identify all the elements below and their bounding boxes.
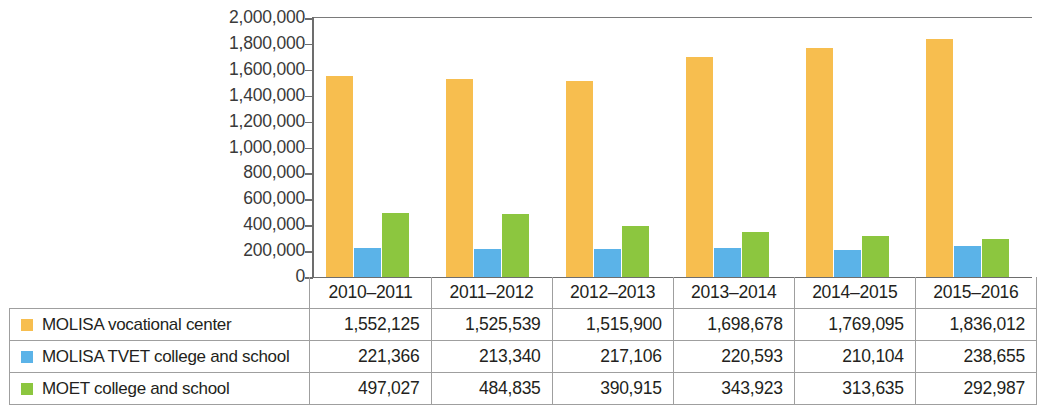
bar bbox=[382, 213, 409, 277]
table-column-header: 2011–2012 bbox=[431, 277, 552, 309]
legend-swatch-icon bbox=[21, 383, 33, 395]
y-axis-tick-labels: 2,000,0001,800,0001,600,0001,400,0001,20… bbox=[0, 0, 305, 278]
data-table: 2010–20112011–20122012–20132013–20142014… bbox=[9, 277, 1037, 405]
bar-group bbox=[434, 18, 554, 277]
y-axis-tick-label: 800,000 bbox=[243, 164, 305, 182]
legend-label: MOET college and school bbox=[42, 379, 229, 399]
table-cell-value: 220,593 bbox=[673, 341, 794, 373]
bar-group bbox=[554, 18, 674, 277]
table-cell-value: 343,923 bbox=[673, 373, 794, 405]
y-axis-tick-mark bbox=[305, 251, 313, 253]
table-row: MOLISA vocational center1,552,1251,525,5… bbox=[10, 309, 1037, 341]
bar bbox=[714, 248, 741, 277]
y-axis-tick-label: 1,800,000 bbox=[229, 35, 305, 53]
y-axis-tick-label: 600,000 bbox=[243, 190, 305, 208]
table-cell-value: 213,340 bbox=[431, 341, 552, 373]
table-row: MOLISA TVET college and school221,366213… bbox=[10, 341, 1037, 373]
y-axis-tick-mark bbox=[305, 199, 313, 201]
y-axis-tick-mark bbox=[305, 122, 313, 124]
table-cell-value: 238,655 bbox=[915, 341, 1036, 373]
table-cell-value: 1,698,678 bbox=[673, 309, 794, 341]
legend-swatch-icon bbox=[21, 319, 33, 331]
table-cell-value: 313,635 bbox=[794, 373, 915, 405]
table-cell-value: 1,515,900 bbox=[552, 309, 673, 341]
table-cell-value: 292,987 bbox=[915, 373, 1036, 405]
legend-swatch-icon bbox=[21, 351, 33, 363]
y-axis-tick-label: 200,000 bbox=[243, 242, 305, 260]
table-row: MOET college and school497,027484,835390… bbox=[10, 373, 1037, 405]
bar bbox=[862, 236, 889, 277]
legend-item-1: MOLISA TVET college and school bbox=[10, 341, 310, 373]
y-axis-tick-mark bbox=[305, 173, 313, 175]
y-axis-tick-mark bbox=[305, 18, 313, 20]
y-axis-tick-label: 1,400,000 bbox=[229, 87, 305, 105]
table-cell-value: 1,525,539 bbox=[431, 309, 552, 341]
table-cell-value: 497,027 bbox=[310, 373, 431, 405]
bar bbox=[834, 250, 861, 277]
bar bbox=[326, 76, 353, 277]
bar bbox=[982, 239, 1009, 277]
legend-item-2: MOET college and school bbox=[10, 373, 310, 405]
table-column-header: 2013–2014 bbox=[673, 277, 794, 309]
y-axis-tick-label: 400,000 bbox=[243, 216, 305, 234]
bar-group bbox=[914, 18, 1034, 277]
y-axis-tick-label: 1,200,000 bbox=[229, 113, 305, 131]
bar bbox=[806, 48, 833, 277]
bar bbox=[926, 39, 953, 277]
bar bbox=[742, 232, 769, 277]
data-table-body: 2010–20112011–20122012–20132013–20142014… bbox=[10, 277, 1037, 405]
bar-group bbox=[674, 18, 794, 277]
table-corner-cell bbox=[10, 277, 310, 309]
table-cell-value: 217,106 bbox=[552, 341, 673, 373]
legend-label: MOLISA TVET college and school bbox=[42, 347, 289, 367]
table-cell-value: 1,836,012 bbox=[915, 309, 1036, 341]
bar bbox=[954, 246, 981, 277]
bar-group bbox=[314, 18, 434, 277]
legend-item-0: MOLISA vocational center bbox=[10, 309, 310, 341]
bar-group bbox=[794, 18, 914, 277]
bar-chart-plot: 2,000,0001,800,0001,600,0001,400,0001,20… bbox=[0, 0, 1032, 278]
table-cell-value: 390,915 bbox=[552, 373, 673, 405]
legend-label: MOLISA vocational center bbox=[42, 315, 231, 335]
bar bbox=[622, 226, 649, 277]
table-cell-value: 1,769,095 bbox=[794, 309, 915, 341]
y-axis-tick-mark bbox=[305, 44, 313, 46]
table-cell-value: 221,366 bbox=[310, 341, 431, 373]
table-column-header: 2014–2015 bbox=[794, 277, 915, 309]
bar bbox=[566, 81, 593, 277]
table-cell-value: 484,835 bbox=[431, 373, 552, 405]
plot-area bbox=[314, 18, 1032, 277]
bar bbox=[474, 249, 501, 277]
table-cell-value: 210,104 bbox=[794, 341, 915, 373]
table-header-row: 2010–20112011–20122012–20132013–20142014… bbox=[10, 277, 1037, 309]
y-axis-tick-mark bbox=[305, 225, 313, 227]
y-axis-tick-mark bbox=[305, 70, 313, 72]
y-axis-tick-label: 1,000,000 bbox=[229, 139, 305, 157]
table-column-header: 2010–2011 bbox=[310, 277, 431, 309]
y-axis-tick-label: 2,000,000 bbox=[229, 9, 305, 27]
bar bbox=[354, 248, 381, 277]
y-axis-tick-label: 1,600,000 bbox=[229, 61, 305, 79]
table-column-header: 2012–2013 bbox=[552, 277, 673, 309]
bar bbox=[502, 214, 529, 277]
bar bbox=[594, 249, 621, 277]
bar bbox=[446, 79, 473, 277]
y-axis-tick-mark bbox=[305, 96, 313, 98]
bar bbox=[686, 57, 713, 277]
table-column-header: 2015–2016 bbox=[915, 277, 1036, 309]
y-axis-tick-mark bbox=[305, 148, 313, 150]
table-cell-value: 1,552,125 bbox=[310, 309, 431, 341]
